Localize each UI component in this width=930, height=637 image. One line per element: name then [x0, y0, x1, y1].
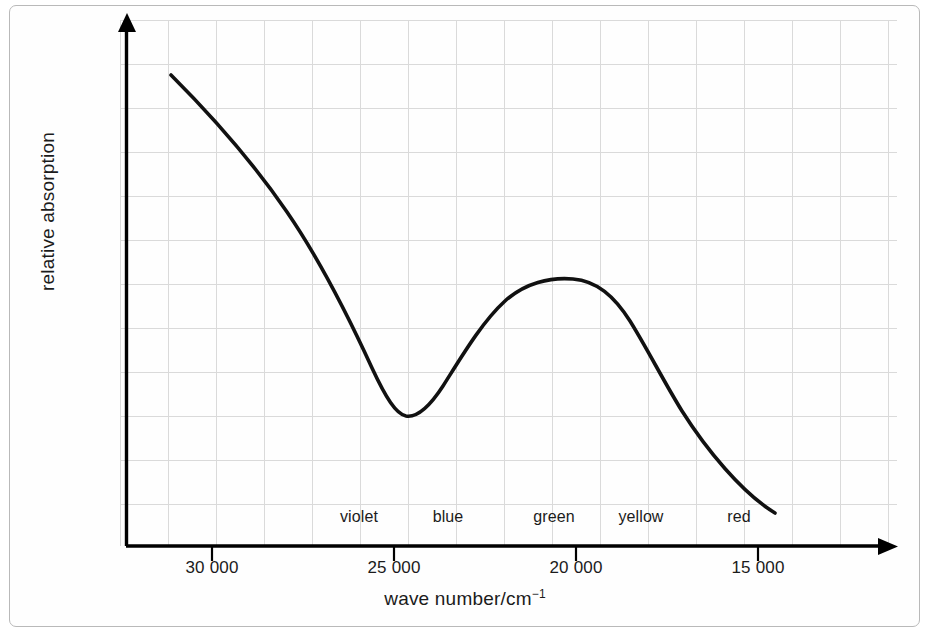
color-band-label-red: red	[727, 508, 750, 526]
x-tick-label-15000: 15 000	[731, 558, 784, 578]
figure-page: 30 000 25 000 20 000 15 000 violet blue …	[0, 0, 930, 637]
x-axis-title: wave number/cm−1	[384, 588, 546, 610]
x-axis-title-text: wave number/cm	[384, 588, 531, 609]
absorption-spectrum-plot	[0, 0, 930, 637]
color-band-label-blue: blue	[433, 508, 464, 526]
grid-lines	[120, 20, 897, 546]
x-tick-label-25000: 25 000	[367, 558, 420, 578]
x-axis	[126, 538, 898, 555]
x-axis-ticks	[212, 546, 758, 561]
x-tick-label-20000: 20 000	[549, 558, 602, 578]
color-band-label-yellow: yellow	[618, 508, 663, 526]
color-band-label-violet: violet	[340, 508, 378, 526]
color-band-label-green: green	[533, 508, 574, 526]
x-tick-label-30000: 30 000	[185, 558, 238, 578]
y-axis-title: relative absorption	[37, 132, 59, 291]
absorption-curve	[171, 75, 775, 513]
x-axis-title-exponent: −1	[532, 587, 546, 601]
